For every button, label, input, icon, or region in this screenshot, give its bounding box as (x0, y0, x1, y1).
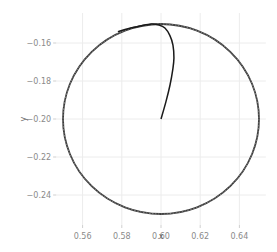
y-tick-label: −0.18 (27, 77, 52, 86)
trajectory-series (118, 24, 174, 119)
chart: −0.16−0.18−0.20−0.22−0.24 0.560.580.600.… (0, 0, 277, 252)
x-axis-label: x (159, 232, 164, 241)
y-axis-label: y (19, 116, 28, 121)
y-tick-label: −0.22 (27, 153, 52, 162)
x-tick-label: 0.62 (191, 232, 209, 241)
x-tick-label: 0.64 (230, 232, 248, 241)
y-axis-ticks: −0.16−0.18−0.20−0.22−0.24 (27, 39, 57, 200)
x-tick-label: 0.56 (74, 232, 92, 241)
x-tick-label: 0.58 (113, 232, 131, 241)
y-tick-label: −0.20 (27, 115, 52, 124)
y-tick-label: −0.24 (27, 191, 52, 200)
y-tick-label: −0.16 (27, 39, 52, 48)
